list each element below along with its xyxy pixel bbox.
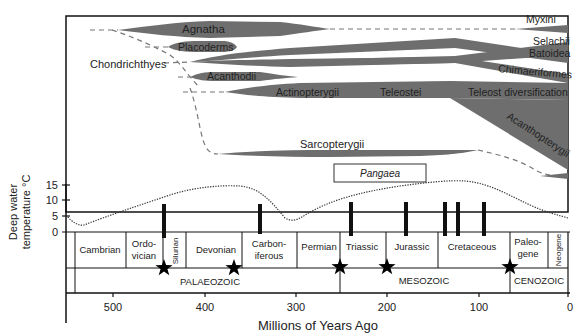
x-tick-200: 200 (378, 301, 396, 313)
y-tick-0: 0 (52, 226, 58, 238)
period-paleogene-1: Paleo- (514, 236, 541, 247)
y-axis-ticks (62, 185, 570, 232)
star-icon (378, 258, 395, 274)
y-axis-label-line2: temperature °C (20, 175, 32, 250)
y-axis-label-line1: Deep water (7, 184, 19, 241)
label-teleost-diversification: Teleost diversification (468, 86, 568, 98)
label-batoidea: Batoidea (529, 47, 571, 59)
label-pangaea: Pangaea (360, 168, 400, 179)
event-bar (443, 202, 447, 236)
label-actinopterygii: Actinopterygii (276, 86, 339, 98)
x-tick-300: 300 (287, 301, 305, 313)
period-devonian: Devonian (196, 244, 236, 255)
lineage-sarcopterygii-tip (540, 173, 568, 179)
event-bar (349, 202, 353, 236)
label-acanthodii: Acanthodii (207, 70, 256, 82)
period-ordovician-1: Ordo- (132, 238, 156, 249)
y-tick-10: 10 (46, 194, 58, 206)
event-bars (162, 202, 486, 238)
lineage-myxini (515, 25, 568, 33)
event-bar (456, 202, 460, 236)
label-teleostei: Teleostei (380, 86, 421, 98)
label-chondrichthyes: Chondrichthyes (90, 58, 167, 70)
period-permian: Permian (301, 241, 336, 252)
label-selachii: Selachii (533, 35, 570, 47)
period-ordovician-2: vician (132, 250, 156, 261)
period-cambrian: Cambrian (79, 244, 120, 255)
phylogeny-panel: Agnatha Myxini Placoderms Chondrichthyes… (66, 13, 573, 212)
y-tick-15: 15 (46, 179, 58, 191)
mass-extinction-stars (155, 258, 518, 275)
event-bar (258, 204, 262, 234)
y-tick-5: 5 (52, 210, 58, 222)
star-icon (225, 259, 242, 275)
era-mesozoic: MESOZOIC (399, 275, 450, 286)
x-tick-0: 0 (567, 301, 573, 313)
period-jurassic: Jurassic (395, 241, 430, 252)
x-tick-100: 100 (470, 301, 488, 313)
lineage-sarcopterygii (218, 150, 478, 157)
event-bar (482, 202, 486, 236)
label-placoderms: Placoderms (178, 41, 233, 53)
period-neogene: Neogene (554, 233, 563, 266)
period-carboniferous-1: Carbon- (252, 238, 286, 249)
period-silurian: Silurian (171, 238, 180, 265)
x-axis-label: Millions of Years Ago (258, 318, 378, 333)
period-paleogene-2: gene (517, 248, 538, 259)
label-agnatha: Agnatha (182, 23, 225, 35)
period-triassic: Triassic (346, 241, 379, 252)
period-carboniferous-2: iferous (255, 250, 284, 261)
label-sarcopterygii: Sarcopterygii (300, 138, 364, 150)
temperature-curve (66, 181, 568, 225)
era-cenozoic: CENOZOIC (514, 275, 564, 286)
era-palaeozoic: PALAEOZOIC (180, 276, 240, 287)
event-bar (404, 202, 408, 236)
fish-evolution-timeline-chart: Agnatha Myxini Placoderms Chondrichthyes… (0, 0, 578, 335)
label-myxini: Myxini (526, 13, 556, 25)
period-cretaceous: Cretaceous (448, 241, 497, 252)
label-chimaeriformes: Chimaeriformes (498, 62, 573, 80)
x-tick-400: 400 (196, 301, 214, 313)
x-tick-500: 500 (104, 301, 122, 313)
